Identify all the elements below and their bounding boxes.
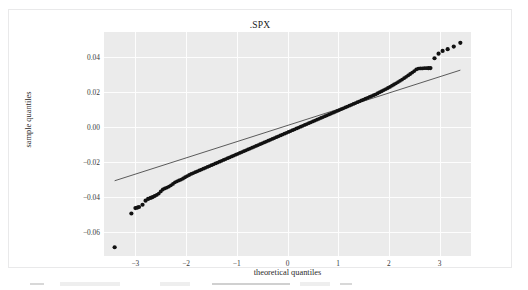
- screenshot-root: .SPX 0.040.020.00−0.02−0.04−0.06 −3−2−10…: [0, 0, 528, 290]
- data-point: [441, 49, 445, 53]
- data-point: [432, 56, 436, 60]
- footer-mark-right: [340, 283, 352, 285]
- reference-line: [115, 70, 461, 181]
- data-point: [452, 44, 456, 48]
- y-tick-label: −0.02: [83, 158, 100, 167]
- figure-card: .SPX 0.040.020.00−0.02−0.04−0.06 −3−2−10…: [8, 9, 512, 268]
- plot-canvas: [104, 32, 471, 256]
- x-tick-label: −3: [131, 259, 139, 268]
- data-point: [436, 52, 440, 56]
- plot-area: [104, 32, 471, 256]
- data-point: [428, 66, 432, 70]
- y-tick-label: −0.06: [83, 228, 100, 237]
- data-point: [113, 245, 117, 249]
- data-point: [458, 41, 462, 45]
- x-tick-label: −2: [182, 259, 190, 268]
- x-tick-label: 1: [336, 259, 340, 268]
- footer-smudge-right: [300, 282, 330, 286]
- chart-title: .SPX: [9, 20, 511, 30]
- data-point: [140, 203, 144, 207]
- y-tick-label: −0.04: [83, 193, 100, 202]
- footer-artifacts: [0, 275, 528, 290]
- x-tick-label: 0: [286, 259, 290, 268]
- footer-smudge-center: [160, 282, 190, 286]
- y-tick-label: 0.04: [87, 53, 100, 62]
- x-tick-label: 2: [387, 259, 391, 268]
- data-point: [137, 205, 141, 209]
- y-axis-ticks: 0.040.020.00−0.02−0.04−0.06: [64, 32, 100, 256]
- y-tick-label: 0.00: [87, 123, 100, 132]
- y-tick-label: 0.02: [87, 88, 100, 97]
- footer-smudge-mid: [60, 282, 120, 286]
- data-point-group: [113, 41, 463, 250]
- data-point: [129, 211, 133, 215]
- footer-mark-left: [30, 283, 44, 285]
- x-tick-label: −1: [233, 259, 241, 268]
- footer-mark-text: [212, 283, 290, 285]
- data-point: [446, 47, 450, 51]
- y-axis-label: sample quantiles: [24, 60, 33, 180]
- x-tick-label: 3: [438, 259, 442, 268]
